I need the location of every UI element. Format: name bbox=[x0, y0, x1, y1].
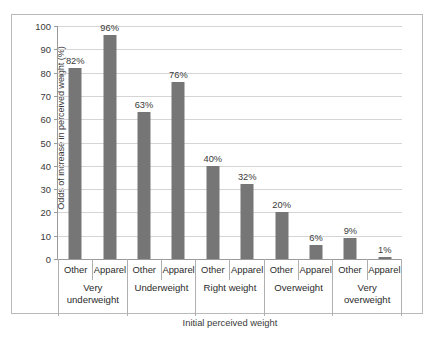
bar bbox=[206, 166, 219, 259]
y-tick-label: 40 bbox=[17, 160, 51, 171]
bar-value-label: 20% bbox=[272, 200, 291, 210]
y-tick-mark bbox=[54, 49, 58, 50]
x-axis-subcategory-label: Apparel bbox=[230, 259, 264, 280]
x-axis-subcategory-label: Apparel bbox=[299, 259, 333, 280]
y-tick-label: 70 bbox=[17, 90, 51, 101]
x-axis-subcategory-labels: OtherApparelOtherApparelOtherApparelOthe… bbox=[58, 259, 402, 280]
y-tick-mark bbox=[54, 236, 58, 237]
x-axis-group-label: Underweight bbox=[128, 280, 197, 316]
bar bbox=[241, 184, 254, 259]
x-axis-subcategory-label: Apparel bbox=[93, 259, 127, 280]
bar-value-label: 40% bbox=[203, 154, 222, 164]
y-tick-mark bbox=[54, 166, 58, 167]
y-tick-label: 10 bbox=[17, 230, 51, 241]
x-axis-subcategory-label: Other bbox=[265, 259, 299, 280]
y-tick-mark bbox=[54, 119, 58, 120]
y-tick-label: 90 bbox=[17, 44, 51, 55]
y-tick-label: 60 bbox=[17, 114, 51, 125]
bar bbox=[275, 212, 288, 259]
x-axis-subcategory-label: Other bbox=[196, 259, 230, 280]
y-tick-label: 20 bbox=[17, 207, 51, 218]
y-tick-label: 30 bbox=[17, 184, 51, 195]
y-tick-label: 0 bbox=[17, 254, 51, 265]
x-axis-group-labels: Very underweightUnderweightRight weightO… bbox=[58, 280, 402, 316]
y-tick-mark bbox=[54, 96, 58, 97]
y-tick-mark bbox=[54, 143, 58, 144]
x-axis-group-label: Right weight bbox=[196, 280, 265, 316]
x-axis-subcategory-label: Apparel bbox=[162, 259, 196, 280]
y-tick-mark bbox=[54, 212, 58, 213]
y-tick-mark bbox=[54, 26, 58, 27]
x-axis-subcategory-label: Apparel bbox=[368, 259, 402, 280]
bar-value-label: 82% bbox=[66, 56, 85, 66]
bar-value-label: 76% bbox=[169, 70, 188, 80]
x-axis-group-label: Very underweight bbox=[58, 280, 128, 316]
bar bbox=[344, 238, 357, 259]
bar bbox=[172, 82, 185, 259]
y-tick-mark bbox=[54, 73, 58, 74]
y-tick-label: 80 bbox=[17, 67, 51, 78]
x-axis-group-label: Overweight bbox=[265, 280, 334, 316]
x-axis-subcategory-label: Other bbox=[333, 259, 367, 280]
bar-value-label: 9% bbox=[344, 226, 357, 236]
bar-value-label: 32% bbox=[238, 172, 257, 182]
y-tick-label: 50 bbox=[17, 137, 51, 148]
bar-value-label: 1% bbox=[378, 245, 391, 255]
x-axis-subcategory-label: Other bbox=[58, 259, 93, 280]
bar-value-label: 6% bbox=[309, 233, 322, 243]
y-tick-mark bbox=[54, 189, 58, 190]
bar bbox=[138, 112, 151, 259]
bar bbox=[69, 68, 82, 259]
x-axis-group-label: Very overweight bbox=[333, 280, 402, 316]
chart-frame: Odds of increase in perceived weight (%)… bbox=[11, 14, 423, 314]
bar-value-label: 96% bbox=[100, 23, 119, 33]
bar bbox=[103, 35, 116, 259]
bar bbox=[310, 245, 323, 259]
bar-value-label: 63% bbox=[135, 100, 154, 110]
x-axis-title: Initial perceived weight bbox=[58, 317, 402, 328]
y-tick-label: 100 bbox=[17, 21, 51, 32]
x-axis-subcategory-label: Other bbox=[128, 259, 162, 280]
plot-area: 0102030405060708090100 82%96%63%76%40%32… bbox=[58, 26, 402, 259]
